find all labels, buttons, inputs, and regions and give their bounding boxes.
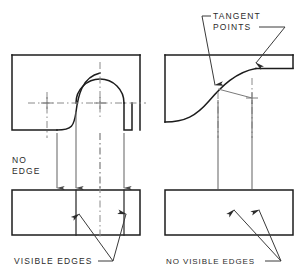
technical-drawing-svg: NO EDGE VISIBLE EDGES TANGENT POINTS (0, 0, 305, 276)
no-visible-edges-annotation: NO VISIBLE EDGES (166, 210, 281, 266)
tangent-points-annotation: TANGENT POINTS (202, 11, 285, 85)
tangent-leader-right (256, 27, 285, 63)
right-front-view (165, 190, 293, 235)
left-center-mark-1 (41, 97, 53, 109)
visible-edges-label: VISIBLE EDGES (14, 256, 93, 266)
right-front-view-rect (165, 190, 293, 235)
visible-edges-leader-left (79, 214, 113, 261)
left-center-mark-2 (94, 97, 106, 109)
left-projection-lines (57, 112, 124, 188)
right-projection-lines (218, 100, 252, 189)
no-edge-label-line2: EDGE (12, 166, 41, 176)
left-reverse-curve (57, 73, 100, 130)
left-top-view (12, 55, 146, 138)
drawing-canvas: NO EDGE VISIBLE EDGES TANGENT POINTS (0, 0, 305, 276)
right-top-view (165, 55, 293, 138)
right-center-leader (218, 89, 252, 98)
no-edge-annotation: NO EDGE (12, 155, 41, 176)
visible-edges-leader-right (113, 214, 126, 261)
tangent-points-label-line1: TANGENT (213, 11, 261, 21)
left-top-view-outline (12, 55, 57, 130)
no-visible-edges-label: NO VISIBLE EDGES (166, 257, 255, 266)
left-slot-notch (124, 103, 132, 130)
tangent-points-label-line2: POINTS (213, 22, 251, 32)
no-edge-label-line1: NO (12, 155, 27, 165)
visible-edges-annotation: VISIBLE EDGES (14, 214, 126, 266)
